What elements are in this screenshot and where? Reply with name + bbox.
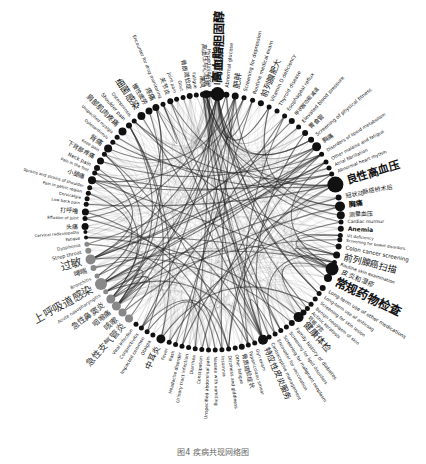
network-node [296, 124, 301, 129]
network-node [339, 220, 344, 225]
network-figure: 高血脂胆固醇高血压与心脏病Abnormal glucose肥胖Screening… [0, 0, 426, 440]
network-node [305, 306, 310, 311]
network-node [161, 102, 166, 107]
network-node [239, 344, 245, 350]
network-node [333, 252, 340, 259]
network-node [324, 159, 329, 164]
network-node [327, 165, 332, 170]
network-node [194, 93, 199, 98]
network-node [174, 97, 179, 102]
network-node [85, 196, 90, 201]
node-label: Cardiac murmur [348, 219, 385, 224]
network-node [86, 191, 91, 196]
network-node [103, 289, 108, 294]
network-node [167, 340, 172, 345]
network-node [112, 302, 121, 311]
network-node [150, 333, 155, 338]
network-node [167, 98, 173, 104]
network-node [119, 309, 127, 317]
network-node [312, 142, 321, 151]
network-node [156, 334, 165, 343]
network-node [87, 185, 92, 190]
network-node [273, 332, 278, 337]
network-node [223, 92, 229, 98]
network-node [146, 108, 153, 115]
network-node [250, 98, 255, 103]
network-node [180, 344, 185, 349]
network-node [324, 274, 332, 282]
network-node [139, 326, 144, 331]
network-node [335, 201, 345, 211]
network-node [213, 89, 223, 99]
network-node [252, 341, 257, 346]
network-node [338, 226, 344, 232]
network-node [95, 278, 107, 290]
network-node [132, 119, 137, 124]
network-node [338, 233, 343, 238]
network-node [213, 348, 218, 353]
network-node [302, 130, 308, 136]
network-node [289, 118, 295, 124]
network-node [85, 248, 91, 254]
network-node [219, 347, 224, 352]
network-node [309, 302, 314, 307]
node-label: Anemia [348, 225, 374, 233]
network-node [83, 216, 88, 221]
network-node [199, 347, 204, 352]
figure-caption: 图4 疾病共现网络图 [0, 446, 426, 457]
network-node [102, 152, 107, 157]
network-node [317, 291, 322, 296]
network-node [267, 105, 272, 110]
node-label: 打呼噜 [60, 206, 79, 215]
node-label: Gout [177, 80, 184, 92]
network-node [104, 145, 112, 153]
network-node [92, 171, 97, 176]
network-node [258, 335, 268, 345]
network-node [86, 254, 96, 264]
node-label: 胸痛 [348, 199, 363, 210]
network-node [95, 274, 100, 279]
network-node [320, 285, 326, 291]
network-node [84, 202, 89, 207]
network-node [173, 342, 178, 347]
node-label: 肥胖 [231, 72, 244, 89]
network-node [88, 176, 96, 184]
network-node [181, 95, 186, 100]
network-node [294, 312, 304, 322]
network-node [152, 104, 159, 111]
network-node [289, 320, 295, 326]
network-node [187, 93, 193, 99]
network-node [125, 315, 133, 323]
network-node [308, 137, 314, 143]
network-node [119, 128, 127, 136]
node-label: Fatigue [65, 235, 81, 242]
network-node [200, 91, 206, 97]
node-label: Unspecified abdominal pain [203, 356, 210, 419]
network-node [226, 347, 231, 352]
node-label: Rash [168, 350, 176, 362]
network-node [326, 262, 339, 275]
node-label: Constipation [196, 356, 203, 385]
network-node [82, 223, 89, 230]
network-node [206, 347, 211, 352]
network-node [97, 157, 104, 164]
node-label: 测量血压 [349, 209, 373, 218]
node-label: II型糖尿病 [211, 44, 223, 86]
network-node [275, 109, 280, 114]
network-node [84, 242, 89, 247]
node-label: Nausea with vomiting [213, 356, 219, 405]
network-node [207, 91, 213, 97]
chord-network-diagram: 高血脂胆固醇高血压与心脏病Abnormal glucose肥胖Screening… [0, 0, 426, 440]
network-node [137, 112, 145, 120]
network-node [282, 113, 287, 118]
network-node [134, 322, 139, 327]
network-node [233, 346, 238, 351]
network-node [145, 329, 150, 334]
network-node [313, 297, 318, 302]
node-label: Insomnia [220, 356, 226, 377]
network-node [336, 243, 342, 249]
network-node [258, 100, 264, 106]
network-node [278, 328, 283, 333]
network-node [337, 211, 345, 219]
network-node [110, 140, 115, 145]
